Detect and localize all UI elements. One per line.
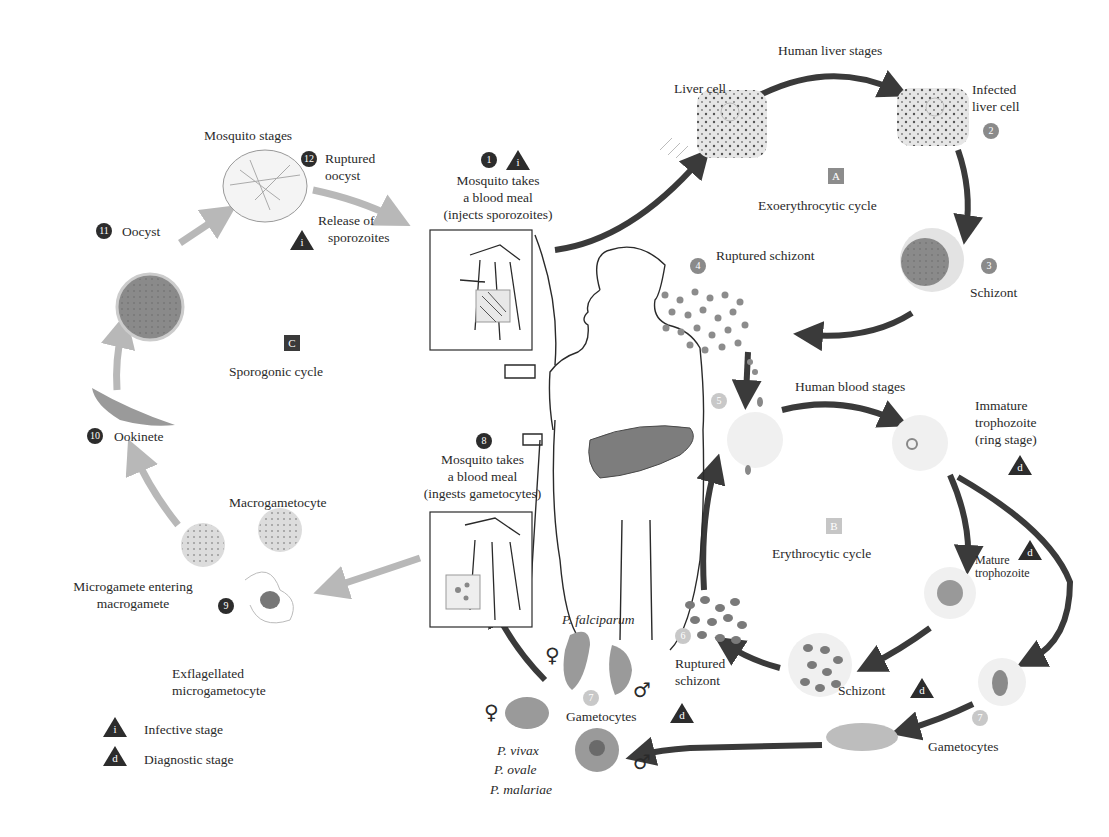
- diagnostic-stage-icon: d: [910, 678, 934, 698]
- step-1-label: Mosquito takesa blood meal(injects sporo…: [428, 172, 568, 223]
- sporozoites: [660, 138, 688, 158]
- human-blood-stages-title: Human blood stages: [795, 378, 905, 395]
- infected-liver-cell: [897, 88, 969, 146]
- falciparum-gametocytes: [564, 632, 632, 695]
- male-symbol: ♂: [633, 680, 651, 700]
- legend-infective-label: Infective stage: [144, 721, 223, 738]
- gametocytes-right-label: Gametocytes: [928, 738, 998, 755]
- step-10-badge: 10: [87, 428, 103, 444]
- p-falciparum-label: P. falciparum: [562, 611, 635, 628]
- step-2-badge: 2: [983, 123, 999, 139]
- infective-stage-icon: i: [290, 230, 314, 250]
- step-4-badge: 4: [690, 258, 706, 274]
- erythrocytic-cycle-label: Erythrocytic cycle: [772, 545, 871, 562]
- step-8-label: Mosquito takesa blood meal(ingests gamet…: [400, 451, 565, 502]
- mosquito-stages-title: Mosquito stages: [204, 127, 292, 144]
- exoerythrocytic-cycle-label: Exoerythrocytic cycle: [758, 197, 877, 214]
- liver-organ: [589, 426, 694, 478]
- liver-cell-label: Liver cell: [674, 80, 726, 97]
- step-4-label: Ruptured schizont: [716, 247, 815, 264]
- step-6-badge: 6: [675, 628, 691, 644]
- exflagellated-microgametocyte: [245, 572, 293, 623]
- p-malariae-label: P. malariae: [490, 781, 552, 798]
- gametocyte-cell-right: [978, 658, 1026, 706]
- step-11-label: Oocyst: [122, 223, 160, 240]
- diagram-artwork: [0, 0, 1109, 837]
- mature-trophozoite-cell: [924, 567, 976, 619]
- mosquito-bite-box-top: [430, 230, 532, 350]
- step-3-badge: 3: [981, 258, 997, 274]
- step-6-label: Rupturedschizont: [675, 655, 725, 689]
- gametocyte-banana-cell: [826, 723, 898, 751]
- step-11-badge: 11: [96, 223, 112, 239]
- sporogonic-cycle-label: Sporogonic cycle: [229, 363, 323, 380]
- step-5-badge: 5: [711, 393, 727, 409]
- step-1-badge: 1: [481, 152, 497, 168]
- erythrocyte-merozoite-entry: [727, 412, 783, 468]
- ruptured-schizont-blood: [685, 596, 747, 644]
- release-sporozoites-label: Release of sporozoites: [318, 212, 390, 246]
- male-symbol: ♂: [633, 752, 651, 772]
- mosquito-bite-box-bottom: [430, 512, 532, 627]
- human-liver-stages-title: Human liver stages: [778, 42, 882, 59]
- step-7-badge-right: 7: [972, 710, 988, 726]
- step-12-badge: 12: [301, 151, 317, 167]
- legend-diagnostic-label: Diagnostic stage: [144, 751, 234, 768]
- immature-trophozoite-cell: [892, 415, 948, 471]
- step-2-label: Infectedliver cell: [972, 81, 1020, 115]
- cycle-c-marker: C: [284, 335, 300, 351]
- infective-stage-icon: i: [506, 150, 530, 170]
- macrogametocyte-label: Macrogametocyte: [229, 494, 326, 511]
- p-vivax-label: P. vivax: [497, 742, 539, 759]
- blood-schizont-label: Schizont: [838, 682, 885, 699]
- step-10-label: Ookinete: [114, 428, 164, 445]
- legend-diagnostic-icon: d: [103, 746, 127, 766]
- female-symbol: ♀: [545, 645, 560, 665]
- diagnostic-stage-icon: d: [1018, 540, 1042, 560]
- cycle-b-marker: B: [826, 518, 842, 534]
- step-8-badge: 8: [476, 433, 492, 449]
- step-7-label: Gametocytes: [566, 708, 636, 725]
- diagnostic-stage-icon: d: [1008, 455, 1032, 475]
- malaria-lifecycle-diagram: Mosquito stages Human liver stages Human…: [0, 0, 1109, 837]
- p-ovale-label: P. ovale: [494, 761, 537, 778]
- step-3-label: Schizont: [970, 284, 1017, 301]
- step-7-badge-left: 7: [583, 690, 599, 706]
- step-9-badge: 9: [218, 598, 234, 614]
- liver-cell: [697, 90, 767, 158]
- ookinete-cell: [92, 388, 175, 426]
- cycle-a-marker: A: [828, 168, 844, 184]
- liver-ruptured-schizont: [662, 289, 759, 376]
- step-9-label: Microgamete enteringmacrogamete: [38, 578, 228, 612]
- immature-trophozoite-label: Immaturetrophozoite(ring stage): [975, 397, 1037, 448]
- liver-schizont: [900, 228, 964, 292]
- legend-infective-icon: i: [103, 717, 127, 737]
- diagnostic-stage-icon: d: [670, 703, 694, 723]
- female-symbol: ♀: [484, 702, 499, 722]
- ruptured-oocyst-cell: [223, 150, 307, 222]
- exflagellated-microgametocyte-label: Exflagellatedmicrogametocyte: [172, 665, 266, 699]
- step-12-label: Rupturedoocyst: [325, 150, 375, 184]
